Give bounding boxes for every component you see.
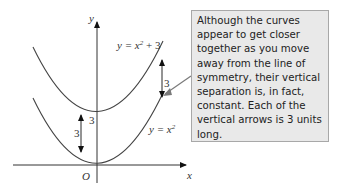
callout-text: Although the curves appear to get closer… xyxy=(197,14,323,142)
left-arrow-label: 3 xyxy=(74,127,80,139)
origin-label: O xyxy=(82,170,90,182)
lower-curve-label: y = x2 xyxy=(148,123,176,135)
lower-curve xyxy=(33,93,163,163)
right-arrow-label: 3 xyxy=(164,77,170,89)
explanation-callout: Although the curves appear to get closer… xyxy=(191,10,329,142)
upper-curve xyxy=(33,41,163,112)
callout-pointer-head xyxy=(163,88,172,96)
upper-curve-label: y = x2 + 3 xyxy=(116,39,161,51)
x-axis-label: x xyxy=(186,169,192,181)
y-axis-label: y xyxy=(88,12,94,24)
intercept-label: 3 xyxy=(89,114,95,126)
